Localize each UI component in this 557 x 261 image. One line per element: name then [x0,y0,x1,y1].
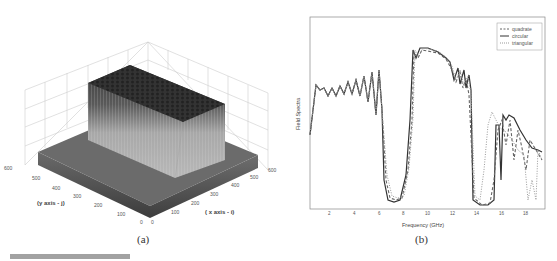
svg-text:18: 18 [523,211,529,216]
svg-text:8: 8 [402,211,405,216]
legend: quadrate circular triangular [497,23,542,50]
x-tick: 100 [171,209,180,215]
svg-text:4: 4 [353,211,356,216]
svg-text:2: 2 [328,211,331,216]
x-tick: 400 [231,182,240,188]
x-tick: 300 [210,191,219,197]
legend-circular: circular [512,33,528,39]
svg-text:6: 6 [378,211,381,216]
x-tick: 500 [250,174,259,180]
y-tick: 500 [32,175,41,181]
svg-text:12: 12 [450,211,456,216]
x-tick: 0 [151,219,154,225]
x-tick: 600 [268,167,277,173]
y-tick: 200 [94,202,103,208]
y-tick: 300 [73,193,82,199]
series-circular [310,48,542,205]
legend-triangular: triangular [512,40,533,46]
series-triangular [310,48,542,200]
x-tick: 200 [191,200,200,206]
spectra-line-chart: 2 4 6 8 10 12 14 16 18 Frequency (GHz) F… [280,0,557,240]
legend-quadrate: quadrate [512,26,532,32]
series-quadrate [310,50,542,205]
surface-3d-plot: 600 500 400 300 200 100 0 0 100 200 300 … [0,0,280,240]
x-axis-label: ( x axis - i) [205,209,234,215]
panel-a-3d-plot: 600 500 400 300 200 100 0 0 100 200 300 … [0,0,280,261]
y-tick: 400 [52,185,61,191]
panel-b-spectra-chart: 2 4 6 8 10 12 14 16 18 Frequency (GHz) F… [280,0,557,261]
x-axis-label: Frequency (GHz) [402,222,444,228]
cropped-caption-text [10,254,130,259]
y-axis-label: Field Spectra [295,97,301,130]
svg-text:16: 16 [499,211,505,216]
y-tick: 100 [117,211,126,217]
svg-text:10: 10 [425,211,431,216]
caption-a: (a) [137,233,149,245]
y-axis-label: (y axis - j) [37,200,65,206]
y-tick: 0 [140,219,143,225]
x-tick-labels: 2 4 6 8 10 12 14 16 18 [328,211,529,216]
caption-b: (b) [415,233,428,245]
z-tick-600: 600 [4,165,13,171]
svg-text:14: 14 [474,211,480,216]
